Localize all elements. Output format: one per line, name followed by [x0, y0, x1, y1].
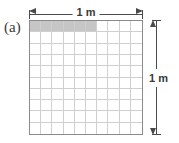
grid-cell [64, 89, 75, 100]
grid-cell [41, 111, 52, 122]
grid-cell [52, 100, 63, 111]
grid-cell [75, 100, 86, 111]
top-dimension-label: 1 m [73, 6, 100, 19]
grid-cell [64, 44, 75, 55]
grid-cell [52, 111, 63, 122]
grid-cell [86, 55, 97, 66]
grid-cell [108, 111, 119, 122]
figure-panel-a: (a) 1 m 1 m [0, 0, 179, 143]
grid-cell [120, 44, 131, 55]
grid-cell [52, 66, 63, 77]
grid-cell [131, 32, 142, 43]
grid-cell [52, 21, 63, 32]
right-dimension-arrow: 1 m [150, 20, 163, 135]
grid-cell [97, 55, 108, 66]
grid-cell [41, 78, 52, 89]
grid-cell [131, 123, 142, 134]
grid-cell [97, 21, 108, 32]
grid-square [29, 20, 143, 135]
grid-cell [97, 111, 108, 122]
grid-cell [41, 21, 52, 32]
grid-cell [30, 89, 41, 100]
grid-cell [52, 55, 63, 66]
grid-cell [52, 78, 63, 89]
grid-cell [30, 44, 41, 55]
panel-label: (a) [4, 20, 21, 35]
grid-cell [30, 100, 41, 111]
grid-cell [86, 32, 97, 43]
grid-cell [108, 21, 119, 32]
grid-cell [108, 66, 119, 77]
arrow-right-icon [136, 8, 143, 14]
grid-cell [120, 66, 131, 77]
grid-cell [75, 55, 86, 66]
grid-cell [75, 123, 86, 134]
grid-cell [131, 66, 142, 77]
grid-cell [86, 21, 97, 32]
grid-cell [97, 78, 108, 89]
grid-cell [64, 66, 75, 77]
grid-cell [64, 78, 75, 89]
grid-cell [131, 78, 142, 89]
grid-cell [108, 100, 119, 111]
grid-cell [75, 44, 86, 55]
grid-cell [41, 89, 52, 100]
grid-cell [64, 111, 75, 122]
grid-cell [97, 123, 108, 134]
grid-cell [75, 32, 86, 43]
grid-cell [86, 89, 97, 100]
grid-cell [75, 111, 86, 122]
arrow-up-icon [150, 20, 156, 27]
grid-cell [75, 78, 86, 89]
grid-cell [52, 123, 63, 134]
grid-cell [30, 78, 41, 89]
grid-cell [64, 100, 75, 111]
grid-cell [120, 32, 131, 43]
grid-cell [64, 32, 75, 43]
grid-cell [41, 55, 52, 66]
grid-cell [120, 100, 131, 111]
grid-cell [86, 78, 97, 89]
grid-cell [108, 55, 119, 66]
grid-cell [41, 66, 52, 77]
grid-cell [30, 111, 41, 122]
grid-cell [120, 111, 131, 122]
grid-cell [86, 111, 97, 122]
grid-cell [30, 66, 41, 77]
grid-cell [108, 89, 119, 100]
grid-cells [30, 21, 142, 134]
grid-cell [41, 100, 52, 111]
grid-cell [75, 66, 86, 77]
grid-cell [97, 32, 108, 43]
grid-cell [86, 44, 97, 55]
grid-cell [64, 123, 75, 134]
right-dimension-label: 1 m [149, 69, 168, 87]
grid-cell [52, 89, 63, 100]
arrow-down-icon [150, 128, 156, 135]
grid-cell [131, 89, 142, 100]
grid-cell [75, 89, 86, 100]
grid-cell [41, 32, 52, 43]
grid-cell [30, 55, 41, 66]
grid-cell [97, 66, 108, 77]
grid-cell [97, 44, 108, 55]
grid-cell [120, 78, 131, 89]
arrow-left-icon [29, 8, 36, 14]
grid-cell [30, 32, 41, 43]
grid-cell [108, 44, 119, 55]
grid-cell [131, 21, 142, 32]
grid-cell [86, 100, 97, 111]
grid-cell [86, 66, 97, 77]
grid-cell [52, 44, 63, 55]
grid-cell [131, 44, 142, 55]
grid-cell [108, 32, 119, 43]
grid-cell [64, 55, 75, 66]
grid-cell [120, 21, 131, 32]
grid-cell [41, 44, 52, 55]
grid-cell [97, 100, 108, 111]
grid-cell [30, 123, 41, 134]
grid-cell [131, 100, 142, 111]
grid-cell [97, 89, 108, 100]
grid-cell [120, 123, 131, 134]
grid-cell [75, 21, 86, 32]
